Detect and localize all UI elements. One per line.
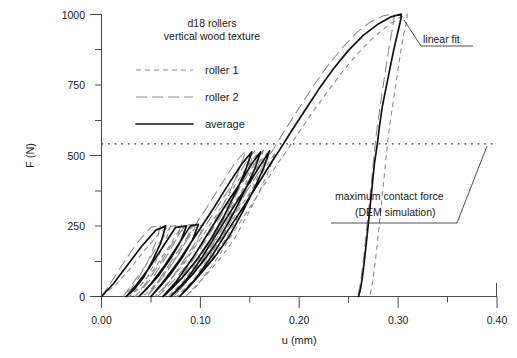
- x-tick-label-000: 0.00: [91, 314, 112, 326]
- x-tick-label-030: 0.30: [388, 314, 409, 326]
- y-tick-label-750: 750: [67, 79, 85, 91]
- force-displacement-chart: 1000 750 500 250 0 0.00 0.10 0.20 0.30 0…: [0, 0, 517, 358]
- y-tick-label-250: 250: [67, 220, 85, 232]
- linear-fit-label: linear fit: [423, 33, 460, 45]
- x-tick-label-010: 0.10: [190, 314, 211, 326]
- chart-figure: 1000 750 500 250 0 0.00 0.10 0.20 0.30 0…: [0, 0, 517, 358]
- legend-label-roller-2: roller 2: [205, 91, 239, 103]
- y-tick-label-500: 500: [67, 150, 85, 162]
- y-axis-title: F (N): [24, 143, 36, 168]
- legend-label-average: average: [205, 118, 245, 130]
- legend-label-roller-1: roller 1: [205, 64, 239, 76]
- max-contact-force-label-1: maximum contact force: [335, 190, 444, 202]
- y-tick-label-0: 0: [79, 291, 85, 303]
- x-axis-title: u (mm): [282, 334, 317, 346]
- max-contact-force-label-2: (DEM simulation): [355, 206, 436, 218]
- legend-title-line-1: d18 rollers: [187, 17, 236, 29]
- x-tick-label-040: 0.40: [487, 314, 508, 326]
- legend-title-line-2: vertical wood texture: [164, 30, 260, 42]
- x-tick-label-020: 0.20: [289, 314, 310, 326]
- y-tick-label-1000: 1000: [62, 9, 86, 21]
